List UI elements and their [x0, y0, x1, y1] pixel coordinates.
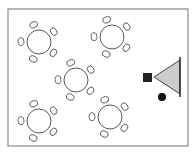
chair-icon: [86, 65, 96, 75]
projection-screen-icon: [154, 60, 180, 94]
table-top: [27, 109, 51, 133]
tables-group: [18, 16, 132, 142]
table-top: [98, 105, 122, 129]
chair-icon: [120, 123, 130, 133]
chair-icon: [29, 21, 38, 29]
round-table: [18, 100, 59, 142]
chair-icon: [102, 16, 111, 24]
chair-icon: [86, 86, 96, 96]
room-layout-diagram: [0, 0, 193, 153]
chair-icon: [99, 130, 109, 138]
chair-icon: [89, 113, 95, 121]
chair-icon: [28, 134, 38, 142]
table-top: [100, 25, 124, 49]
chair-icon: [100, 96, 109, 104]
chair-icon: [28, 55, 38, 63]
round-table: [55, 59, 96, 101]
chair-icon: [66, 59, 75, 67]
round-table: [89, 96, 130, 138]
chair-icon: [49, 127, 59, 137]
table-top: [27, 30, 51, 54]
speaker-dot-icon: [158, 93, 166, 101]
chair-icon: [55, 76, 61, 84]
chair-icon: [49, 48, 59, 58]
chair-icon: [65, 93, 75, 101]
presenter-area: [143, 57, 180, 101]
round-table: [91, 16, 132, 58]
chair-icon: [29, 100, 38, 108]
lectern-icon: [143, 73, 152, 82]
chair-icon: [91, 33, 97, 41]
chair-icon: [49, 27, 59, 37]
chair-icon: [122, 22, 132, 32]
chair-icon: [101, 50, 111, 58]
chair-icon: [49, 106, 59, 116]
round-table: [18, 21, 59, 63]
chair-icon: [122, 43, 132, 53]
chair-icon: [18, 117, 24, 125]
chair-icon: [18, 38, 24, 46]
table-top: [64, 68, 88, 92]
chair-icon: [120, 102, 130, 112]
